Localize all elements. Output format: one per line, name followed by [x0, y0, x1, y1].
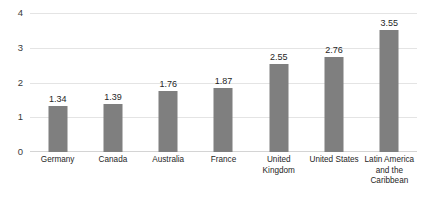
bar-value-label: 2.55 — [270, 52, 288, 62]
bar-group: 2.55 — [251, 13, 306, 152]
bar-group: 1.87 — [196, 13, 251, 152]
bar-value-label: 1.87 — [215, 76, 233, 86]
bar-value-label: 1.76 — [159, 79, 177, 89]
bar-group: 1.39 — [85, 13, 140, 152]
y-axis-tick-label: 0 — [0, 147, 23, 157]
bar[interactable] — [380, 30, 399, 152]
category-label: Latin America and the Caribbean — [362, 155, 417, 187]
category-label: France — [196, 155, 251, 166]
bar-chart: 4 3 2 1 0 1.341.391.761.872.552.763.55 G… — [0, 0, 438, 210]
category-label: United States — [306, 155, 361, 166]
category-label: Germany — [30, 155, 85, 166]
category-label: Australia — [141, 155, 196, 166]
category-label: United Kingdom — [251, 155, 306, 176]
bar[interactable] — [103, 104, 122, 152]
bar[interactable] — [269, 64, 288, 152]
bar[interactable] — [325, 57, 344, 152]
y-axis-tick-label: 1 — [0, 112, 23, 122]
bar-group: 3.55 — [362, 13, 417, 152]
bar-value-label: 2.76 — [325, 45, 343, 55]
category-label: Canada — [85, 155, 140, 166]
bar-group: 2.76 — [306, 13, 361, 152]
bar-value-label: 1.39 — [104, 92, 122, 102]
bar-value-label: 1.34 — [49, 94, 67, 104]
bar[interactable] — [48, 106, 67, 152]
bar-group: 1.34 — [30, 13, 85, 152]
bar[interactable] — [159, 91, 178, 152]
bars-layer: 1.341.391.761.872.552.763.55 — [30, 13, 417, 152]
bar-value-label: 3.55 — [381, 18, 399, 28]
y-axis-tick-label: 2 — [0, 78, 23, 88]
x-axis-category-labels: GermanyCanadaAustraliaFranceUnited Kingd… — [30, 155, 417, 210]
y-axis-tick-label: 4 — [0, 8, 23, 18]
y-axis-tick-label: 3 — [0, 43, 23, 53]
bar[interactable] — [214, 88, 233, 153]
bar-group: 1.76 — [141, 13, 196, 152]
